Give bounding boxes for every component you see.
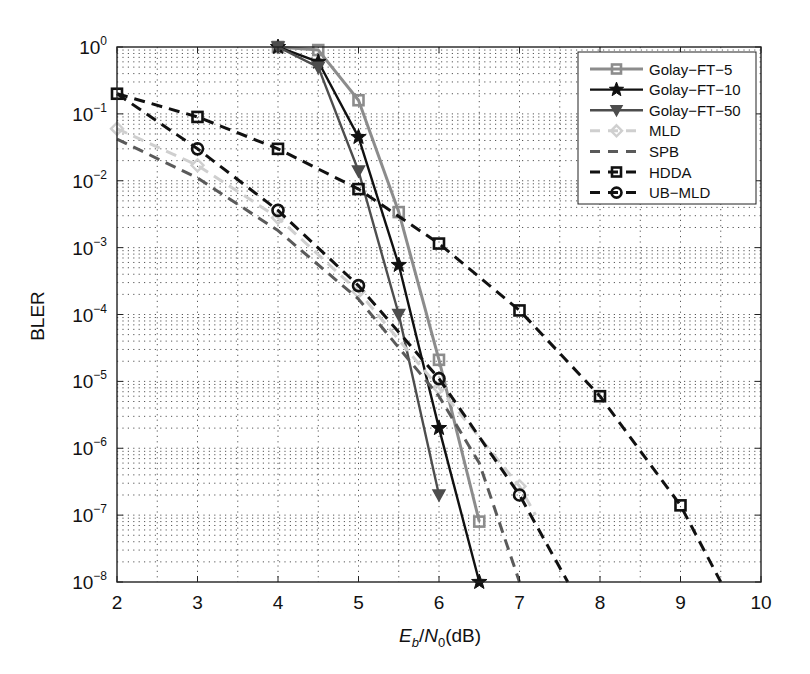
x-tick-label: 6 [434,592,445,613]
legend-label: Golay−FT−5 [649,61,732,78]
legend-label: Golay−FT−10 [649,81,741,98]
y-tick-label: 10−6 [72,435,107,459]
x-tick-label: 5 [353,592,364,613]
bler-chart: 234567891010010−110−210−310−410−510−610−… [0,0,810,674]
legend-label: HDDA [649,164,692,181]
legend-label: SPB [649,143,679,160]
y-tick-label: 10−2 [72,168,107,192]
x-tick-label: 10 [750,592,771,613]
series-line [117,94,568,582]
x-tick-label: 7 [514,592,525,613]
series-golay-ft-5 [273,42,484,527]
x-tick-label: 4 [273,592,284,613]
marker-triangle-down [353,166,365,177]
legend-label: Golay−FT−50 [649,102,741,119]
y-tick-label: 10−3 [72,235,107,259]
series-line [278,47,479,522]
x-axis-title: Eb/N0(dB) [399,625,481,650]
series-golay-ft-50 [272,42,445,501]
legend-label: MLD [649,122,681,139]
legend-label: UB−MLD [649,184,710,201]
y-tick-label: 10−5 [72,368,107,392]
marker-star [472,574,487,589]
series-line [117,129,536,515]
y-tick-label: 10−4 [72,302,107,326]
y-tick-label: 10−7 [72,502,107,526]
y-axis-title: BLER [27,291,48,341]
marker-star [351,129,366,143]
y-tick-label: 10−1 [72,101,107,125]
series-golay-ft-10 [270,39,487,589]
y-tick-label: 100 [79,34,107,58]
marker-triangle-down [393,310,405,321]
y-tick-label: 10−8 [72,569,107,593]
series-mld [111,123,536,515]
x-tick-label: 8 [595,592,606,613]
x-tick-label: 9 [675,592,686,613]
series-ub-mld [117,94,568,582]
x-tick-label: 2 [112,592,123,613]
legend: Golay−FT−5Golay−FT−10Golay−FT−50MLDSPBHD… [578,52,756,204]
marker-triangle-down [433,490,445,501]
x-tick-label: 3 [192,592,203,613]
